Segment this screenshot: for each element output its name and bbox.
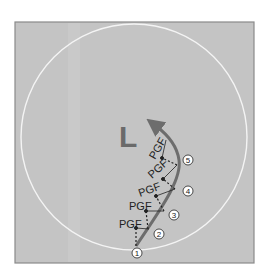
pgf-label-2: PGF bbox=[129, 200, 152, 212]
position-marker-2: 2 bbox=[154, 229, 164, 239]
svg-text:5: 5 bbox=[186, 156, 191, 165]
shading-band bbox=[68, 23, 80, 262]
pgf-diagram: L PGF PGF PGF PGF PGF 1 2 bbox=[0, 0, 269, 275]
position-marker-5: 5 bbox=[183, 155, 193, 165]
position-marker-4: 4 bbox=[183, 186, 193, 196]
svg-text:4: 4 bbox=[186, 187, 191, 196]
svg-text:3: 3 bbox=[172, 211, 177, 220]
low-pressure-letter: L bbox=[119, 120, 137, 153]
position-marker-3: 3 bbox=[169, 210, 179, 220]
svg-text:1: 1 bbox=[135, 249, 140, 258]
svg-text:2: 2 bbox=[157, 230, 162, 239]
pgf-label-1: PGF bbox=[119, 218, 142, 230]
position-marker-1: 1 bbox=[132, 248, 142, 258]
